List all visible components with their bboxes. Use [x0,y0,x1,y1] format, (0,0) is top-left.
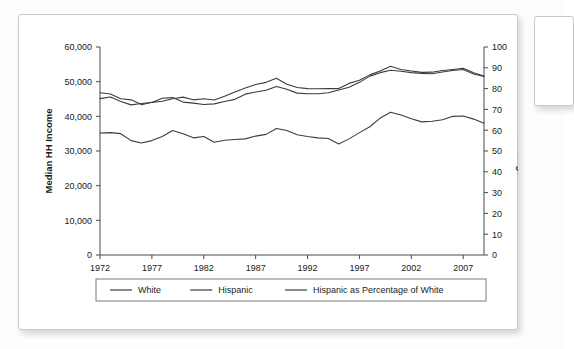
y2-tick-label: 10 [492,230,502,240]
legend-label-1: Hispanic [218,285,253,295]
y2-tick-label: 90 [492,63,502,73]
y2-tick-label: 20 [492,209,502,219]
x-tick-label: 2007 [453,263,473,273]
legend-label-2: Hispanic as Percentage of White [313,285,444,295]
adjacent-card-sliver [534,16,574,106]
x-tick-label: 1972 [90,263,110,273]
y2-axis-title: Percentage [516,125,518,176]
x-tick-label: 1987 [246,263,266,273]
y2-tick-label: 50 [492,146,502,156]
y2-tick-label: 40 [492,167,502,177]
y-tick-label: 40,000 [64,112,92,122]
x-tick-label: 1977 [142,263,162,273]
x-tick-label: 1992 [298,263,318,273]
x-tick-label: 2002 [401,263,421,273]
y-tick-label: 30,000 [64,146,92,156]
series-line-white [100,70,484,105]
y2-tick-label: 60 [492,126,502,136]
x-tick-label: 1997 [349,263,369,273]
series-line-hispanic-as-percentage-of-white [100,66,484,104]
x-tick-label: 1982 [194,263,214,273]
line-chart: 010,00020,00030,00040,00050,00060,000010… [18,14,518,330]
y-tick-label: 60,000 [64,42,92,52]
y2-tick-label: 70 [492,105,502,115]
y2-tick-label: 30 [492,188,502,198]
y-tick-label: 20,000 [64,181,92,191]
series-line-hispanic [100,112,484,144]
y2-tick-label: 80 [492,84,502,94]
y-axis-title: Median HH Income [43,109,54,194]
legend-label-0: White [138,285,161,295]
y2-tick-label: 100 [492,42,507,52]
y-tick-label: 0 [87,250,92,260]
y-tick-label: 10,000 [64,216,92,226]
y-tick-label: 50,000 [64,77,92,87]
y2-tick-label: 0 [492,250,497,260]
